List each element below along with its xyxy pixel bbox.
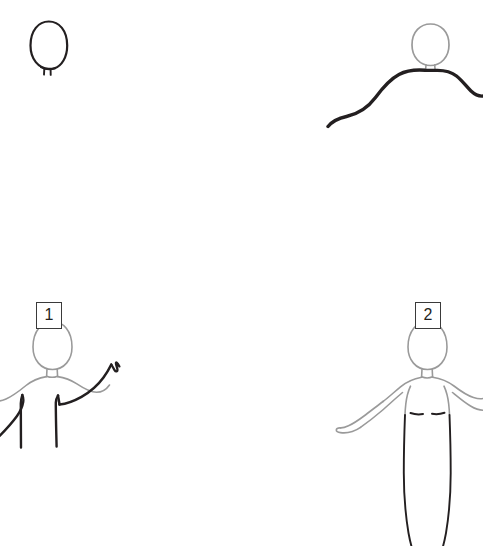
shoulder-curve [328, 70, 483, 126]
standing-figure-front [336, 322, 483, 546]
head-outline-only-figure [31, 22, 68, 75]
left-hand [336, 427, 360, 432]
torso-line-right [56, 396, 58, 447]
drawing-canvas: 1 2 [0, 0, 483, 546]
shoulder-right [433, 377, 483, 399]
raised-arm [60, 365, 112, 405]
neck-base [422, 377, 433, 378]
torso-side-left [405, 386, 411, 415]
head-oval [31, 22, 68, 69]
head-with-shoulder-curve-figure [328, 24, 483, 127]
neck-base [47, 376, 58, 377]
panel-top-right [242, 0, 483, 273]
torso-with-raised-arm-figure [0, 322, 119, 448]
skirt-line-left [404, 415, 414, 546]
head-circle [412, 24, 449, 66]
chest-mark-left [411, 413, 424, 414]
torso-side-right [444, 386, 450, 415]
chest-mark-right [432, 413, 445, 414]
skirt-line-right [441, 415, 451, 546]
panel-top-left [0, 0, 241, 273]
shoulder-left [383, 377, 422, 401]
panel-bottom-right [242, 273, 483, 546]
left-arm-inner [361, 393, 403, 428]
hand [111, 363, 119, 372]
panel-number-badge-1[interactable]: 1 [36, 302, 62, 329]
panel-number-badge-2[interactable]: 2 [415, 302, 441, 329]
